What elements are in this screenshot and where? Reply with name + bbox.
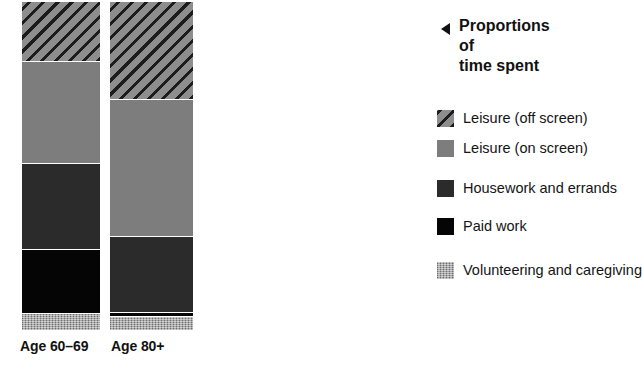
bar-age-60-69 <box>22 2 100 330</box>
legend-swatch-leisure-on-screen <box>437 140 454 157</box>
legend-label-leisure-off-screen: Leisure (off screen) <box>463 110 588 127</box>
bar-segment-leisure-on-screen <box>22 62 100 164</box>
legend-swatch-volunteering-and-caregiving <box>437 262 454 279</box>
legend-label-housework-and-errands: Housework and errands <box>463 180 617 197</box>
bar-segment-paid-work <box>22 250 100 313</box>
legend-swatch-paid-work <box>437 218 454 235</box>
bar-segment-housework-and-errands <box>110 237 193 313</box>
callout-annotation: Proportions of time spent <box>441 16 550 76</box>
legend-item-housework-and-errands: Housework and errands <box>437 180 617 197</box>
bar-segment-leisure-off-screen <box>22 2 100 62</box>
chart-legend: Proportions of time spent Leisure (off s… <box>215 0 439 371</box>
legend-swatch-housework-and-errands <box>437 180 454 197</box>
legend-label-leisure-on-screen: Leisure (on screen) <box>463 140 588 157</box>
bar-segment-leisure-off-screen <box>110 2 193 100</box>
legend-label-paid-work: Paid work <box>463 218 527 235</box>
bar-segment-leisure-on-screen <box>110 100 193 237</box>
legend-item-volunteering-and-caregiving: Volunteering and caregiving <box>437 262 642 279</box>
bar-label-age-60-69: Age 60–69 <box>20 338 88 354</box>
stacked-bar-chart: Age 60–69 Age 80+ <box>0 0 215 371</box>
bar-segment-volunteering-and-caregiving <box>110 317 193 330</box>
legend-item-leisure-off-screen: Leisure (off screen) <box>437 110 588 127</box>
legend-item-paid-work: Paid work <box>437 218 527 235</box>
legend-swatch-leisure-off-screen <box>437 110 454 127</box>
legend-label-volunteering-and-caregiving: Volunteering and caregiving <box>463 262 642 279</box>
legend-item-leisure-on-screen: Leisure (on screen) <box>437 140 588 157</box>
callout-text: Proportions of time spent <box>459 16 550 76</box>
bar-segment-volunteering-and-caregiving <box>22 314 100 330</box>
left-triangle-icon <box>441 23 450 35</box>
bar-label-age-80-plus: Age 80+ <box>111 338 164 354</box>
bar-segment-housework-and-errands <box>22 164 100 250</box>
bar-age-80-plus <box>110 2 193 330</box>
